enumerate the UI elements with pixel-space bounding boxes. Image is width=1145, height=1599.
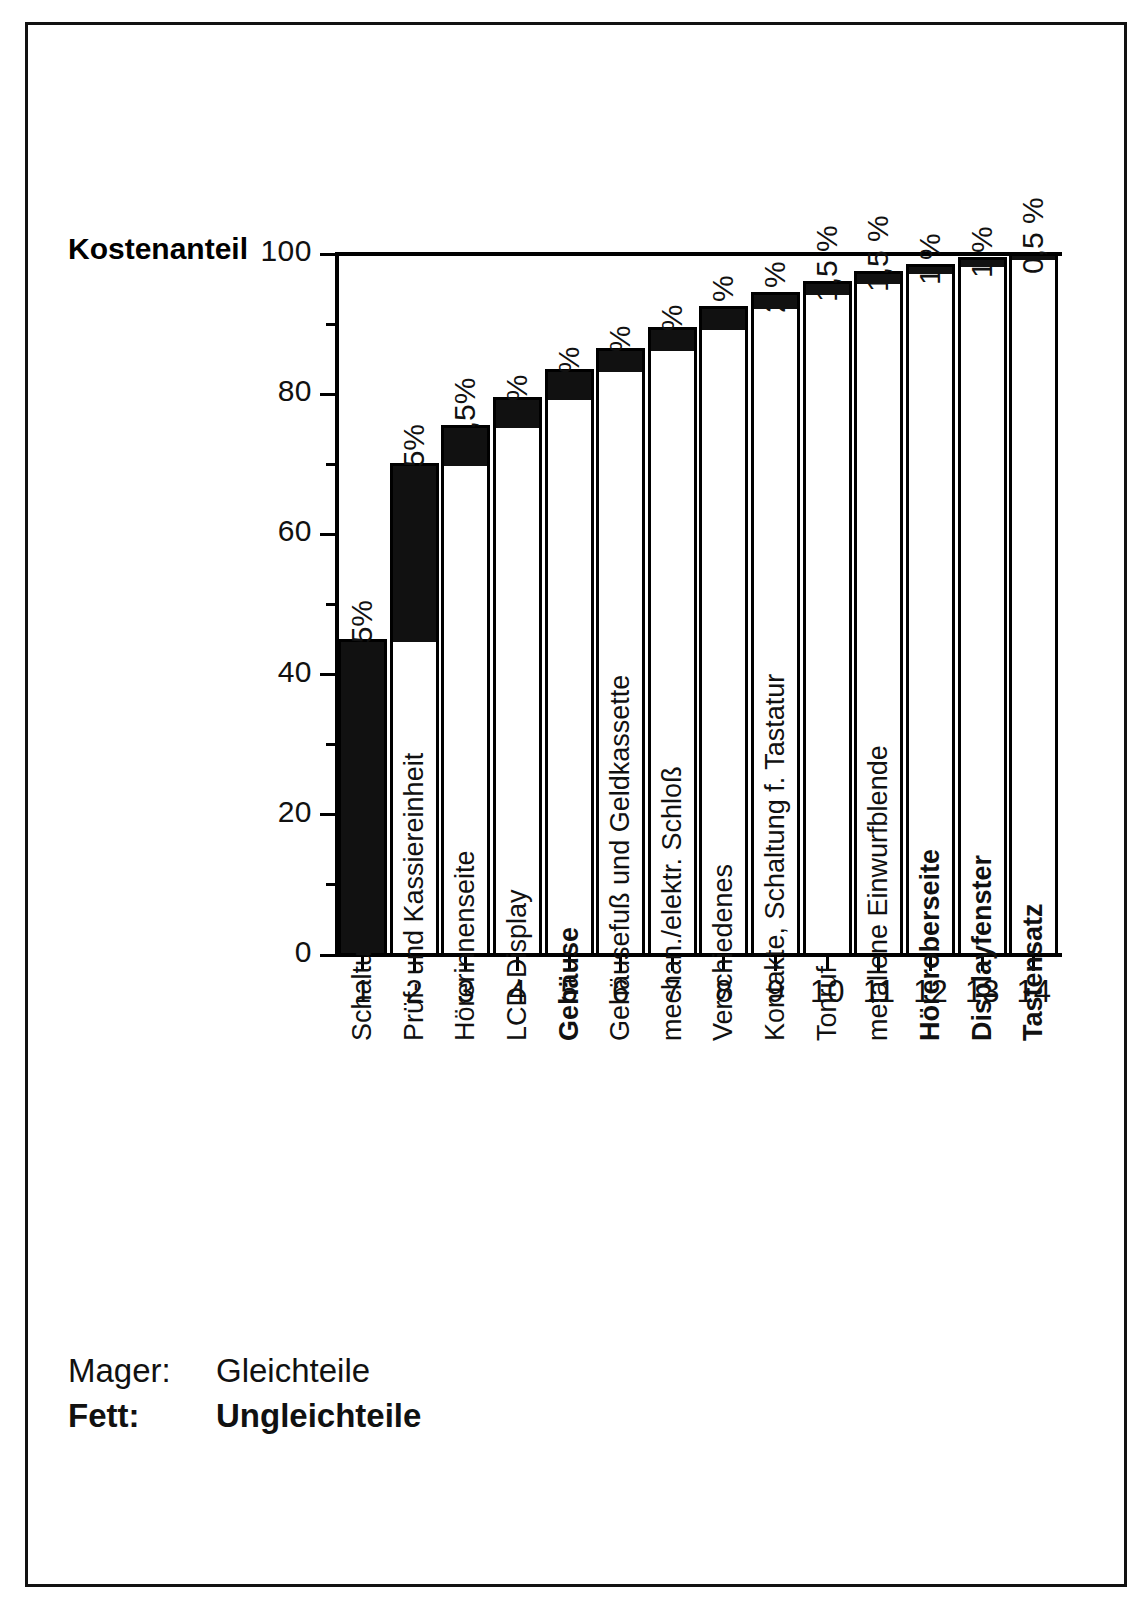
bar-14 [1009,253,1058,956]
bar-value-label: 1,5 % [861,215,895,292]
bar-increment-segment [393,466,436,641]
figure-page: Kostenanteil 020406080100 12345678910111… [0,0,1145,1599]
y-tick-minor [326,323,338,326]
bar-value-label: 5,5% [448,377,482,445]
bar-4 [493,397,542,956]
bar-value-label: 1 % [913,233,947,285]
category-label: mechan./elektr. Schloß [657,766,688,1041]
y-tick-label: 100 [0,234,312,268]
y-tick-label: 20 [0,795,312,829]
category-label: Hörerinnenseite [450,850,481,1041]
y-tick-major [320,393,338,396]
bar-value-label: 4% [552,346,586,389]
category-label: Schaltungsplatine [347,828,378,1041]
y-tick-minor [326,743,338,746]
plot-top-border [335,252,1062,256]
category-label: Prüf- und Kassiereinheit [399,753,430,1041]
bar-value-label: 1,5 % [810,225,844,302]
y-tick-major [320,253,338,256]
y-tick-label: 60 [0,514,312,548]
bar-value-label: 0,5 % [1016,197,1050,274]
y-tick-label: 0 [0,935,312,969]
category-label: Tonruf [812,966,843,1041]
bar-8 [699,306,748,956]
category-label: Höreroberseite [915,849,946,1041]
category-label: Gehäuse [554,927,585,1041]
bar-value-label: 3% [603,325,637,368]
bar-value-label: 3% [655,304,689,347]
y-tick-major [320,533,338,536]
y-tick-label: 80 [0,374,312,408]
y-tick-major [320,954,338,957]
bar-value-label: 4% [500,374,534,417]
category-label: Gehäusefuß und Geldkassette [605,675,636,1041]
legend: Mager:GleichteileFett:Ungleichteile [68,1349,421,1438]
y-tick-minor [326,603,338,606]
bar-5 [545,369,594,956]
category-label: Tastensatz [1018,903,1049,1041]
y-tick-minor [326,463,338,466]
bar-value-label: 1 % [965,226,999,278]
y-tick-label: 40 [0,655,312,689]
bar-13 [958,257,1007,956]
bar-10 [803,281,852,956]
legend-value: Gleichteile [216,1349,370,1394]
legend-value: Ungleichteile [216,1394,421,1439]
category-label: Verschiedenes [708,864,739,1041]
category-label: Kontakte, Schaltung f. Tastatur [760,674,791,1041]
y-tick-minor [326,883,338,886]
legend-row: Fett:Ungleichteile [68,1394,421,1439]
y-tick-major [320,813,338,816]
legend-row: Mager:Gleichteile [68,1349,421,1394]
legend-key: Fett: [68,1394,216,1439]
bar-value-label: 3 % [706,275,740,327]
legend-key: Mager: [68,1349,216,1394]
category-label: metallene Einwurfblende [863,745,894,1041]
y-tick-major [320,673,338,676]
bar-value-label: 2 % [758,261,792,313]
bar-value-label: 25% [397,424,431,484]
category-label: Displayfenster [967,855,998,1041]
bar-value-label: 45% [345,600,379,660]
category-label: LCD-Display [502,889,533,1041]
